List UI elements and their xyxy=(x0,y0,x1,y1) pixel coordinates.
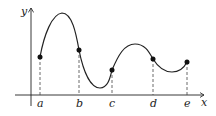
point-a xyxy=(38,55,43,60)
tick-label-d: d xyxy=(150,97,157,110)
function-graph: y x a b c d e xyxy=(0,0,216,116)
point-b xyxy=(77,48,82,53)
function-curve xyxy=(40,13,187,88)
drop-lines xyxy=(40,50,187,95)
point-e xyxy=(185,60,190,65)
point-c xyxy=(110,68,115,73)
tick-label-a: a xyxy=(37,97,44,110)
x-axis-label: x xyxy=(201,96,208,109)
marked-points xyxy=(38,48,190,73)
tick-label-e: e xyxy=(184,97,191,110)
point-d xyxy=(151,57,156,62)
tick-label-b: b xyxy=(76,97,83,110)
y-axis-label: y xyxy=(20,5,28,18)
tick-label-c: c xyxy=(109,97,115,110)
